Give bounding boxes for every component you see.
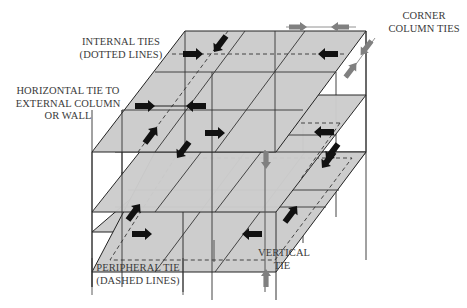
horizontal-tie-label-line3: OR WALL (6, 110, 130, 123)
corner-column-ties-label-line2: COLUMN TIES (380, 23, 467, 36)
horizontal-tie-label-line1: HORIZONTAL TIE TO (6, 85, 130, 98)
peripheral-tie-label-line2: (DASHED LINES) (92, 275, 184, 288)
vertical-tie-label-line1: VERTICAL (258, 247, 306, 260)
internal-ties-label-line1: INTERNAL TIES (70, 36, 172, 49)
corner-column-ties-label: CORNER COLUMN TIES (380, 10, 467, 35)
vertical-tie-label: VERTICAL TIE (258, 247, 306, 272)
peripheral-tie-label: PERIPHERAL TIE (DASHED LINES) (92, 262, 184, 287)
corner-column-ties-label-line1: CORNER (380, 10, 467, 23)
horizontal-tie-label-line2: EXTERNAL COLUMN (6, 98, 130, 111)
peripheral-tie-label-line1: PERIPHERAL TIE (92, 262, 184, 275)
internal-ties-label: INTERNAL TIES (DOTTED LINES) (70, 36, 172, 61)
horizontal-tie-label: HORIZONTAL TIE TO EXTERNAL COLUMN OR WAL… (6, 85, 130, 123)
internal-ties-label-line2: (DOTTED LINES) (70, 49, 172, 62)
vertical-tie-label-line2: TIE (258, 260, 306, 273)
